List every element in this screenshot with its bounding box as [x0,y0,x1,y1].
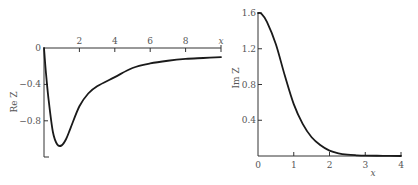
x-tick-label: 3 [362,160,368,170]
x-tick-label: 1 [291,160,297,170]
x-tick-label: 4 [398,160,404,170]
figure: 2468x0−0.4−0.8Re Z 01234x1.61.20.80.4Im … [0,0,418,185]
y-tick-label: 1.6 [242,8,257,18]
y-tick-label: 0 [35,43,41,53]
y-axis-label: Re Z [9,91,19,112]
re-z-curve [44,48,221,146]
y-tick-label: 0.4 [242,115,257,125]
x-tick-label: 6 [147,36,153,46]
im-z-plot: 01234x1.61.20.80.4Im Z [231,8,404,178]
x-tick-label: 2 [77,36,83,46]
x-tick-label: 8 [183,36,189,46]
y-tick-label: 0.8 [242,80,257,90]
y-tick-label: −0.8 [19,116,41,126]
x-tick-label: 0 [255,160,261,170]
x-tick-label: 4 [112,36,118,46]
y-tick-label: 1.2 [242,44,256,54]
x-axis-label: x [218,36,223,46]
re-z-plot: 2468x0−0.4−0.8Re Z [9,36,224,157]
y-tick-label: −0.4 [19,79,41,89]
y-axis-label: Im Z [231,67,241,88]
im-z-curve [258,13,401,156]
x-tick-label: 2 [327,160,333,170]
x-axis-label: x [370,168,375,178]
